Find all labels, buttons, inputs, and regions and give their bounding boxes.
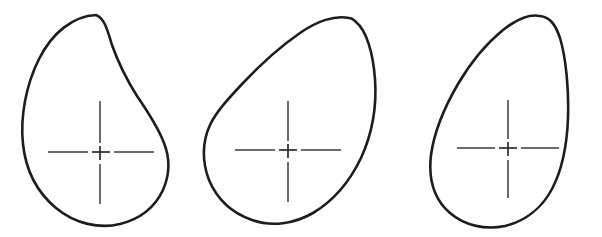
figure-canvas: Egg outline shapes with centroid centerl… bbox=[0, 0, 602, 237]
egg-outlines-figure: Egg outline shapes with centroid centerl… bbox=[0, 0, 602, 237]
